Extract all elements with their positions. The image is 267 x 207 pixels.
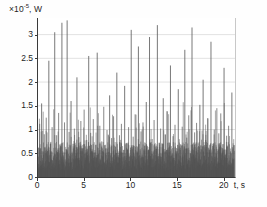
x-axis-tick-mark [224, 178, 225, 181]
y-axis-tick-mark [35, 35, 38, 36]
x-axis-tick-label: 0 [24, 181, 50, 190]
x-axis-tick-mark [37, 178, 38, 181]
x-axis-tick-label: 15 [164, 181, 190, 190]
x-axis-tick-mark [177, 178, 178, 181]
x-axis-tick-label: 10 [117, 181, 143, 190]
x-axis-tick-mark [84, 178, 85, 181]
power-spike-chart: ×10-5, W 00.511.522.53 05101520 t, s [0, 0, 267, 207]
spike-lines [38, 20, 235, 177]
y-axis-tick-mark [35, 153, 38, 154]
plot-canvas [38, 18, 235, 177]
y-axis-tick-label: 1.5 [3, 101, 33, 110]
x-axis-tick-mark [130, 178, 131, 181]
spike-trace [38, 18, 235, 177]
y-axis-tick-mark [35, 106, 38, 107]
y-axis-tick-mark [35, 82, 38, 83]
y-axis-tick-mark [35, 130, 38, 131]
y-axis-tick-label: 2 [3, 78, 33, 87]
y-axis-unit-label: ×10-5, W [9, 3, 42, 14]
y-axis-tick-label: 3 [3, 30, 33, 39]
y-axis-tick-mark [35, 58, 38, 59]
y-axis-tick-label: 1 [3, 125, 33, 134]
y-axis-tick-label: 0.5 [3, 149, 33, 158]
y-axis-unit-mantissa: ×10 [9, 4, 24, 14]
y-axis-tick-label: 2.5 [3, 54, 33, 63]
x-axis-tick-label: 5 [71, 181, 97, 190]
plot-area [37, 18, 236, 178]
x-axis-title: t, s [234, 181, 245, 190]
y-axis-unit-suffix: , W [29, 4, 42, 14]
